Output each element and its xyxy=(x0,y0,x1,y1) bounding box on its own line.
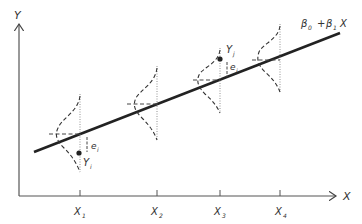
svg-text:X: X xyxy=(274,206,283,217)
x-axis-label: X xyxy=(342,190,351,203)
regression-label: β 0 + β 1 X xyxy=(300,18,348,31)
regression-diagram: Y X X 1 X 2 X 3 X 4 β 0 + β 1 X xyxy=(0,0,362,224)
y-axis-label: Y xyxy=(14,9,22,22)
svg-text:j: j xyxy=(235,67,238,75)
svg-text:3: 3 xyxy=(222,212,226,219)
error-bracket-ei: e i xyxy=(87,137,99,153)
tick-label-x4: X 4 xyxy=(274,206,287,219)
svg-text:Y: Y xyxy=(226,44,233,55)
svg-text:1: 1 xyxy=(82,212,86,219)
svg-text:+: + xyxy=(317,18,325,29)
x-ticks xyxy=(80,190,280,196)
svg-text:X: X xyxy=(213,206,222,217)
data-point-yj xyxy=(217,56,222,61)
distribution-x3 xyxy=(193,48,220,113)
svg-text:β: β xyxy=(300,18,308,29)
tick-label-x3: X 3 xyxy=(213,206,226,219)
svg-text:X: X xyxy=(339,18,348,29)
data-point-label-yj: Y j xyxy=(226,44,235,58)
svg-text:0: 0 xyxy=(308,24,312,31)
svg-text:i: i xyxy=(90,163,92,170)
data-point-yi xyxy=(76,150,81,155)
svg-text:β: β xyxy=(325,18,333,29)
svg-text:X: X xyxy=(73,206,82,217)
svg-text:4: 4 xyxy=(283,212,287,219)
distribution-x2 xyxy=(127,66,157,140)
svg-text:i: i xyxy=(97,146,99,153)
svg-text:2: 2 xyxy=(159,212,163,219)
svg-text:Y: Y xyxy=(83,157,90,168)
tick-label-x2: X 2 xyxy=(150,206,163,219)
svg-text:X: X xyxy=(150,206,159,217)
svg-text:j: j xyxy=(232,50,235,58)
svg-text:1: 1 xyxy=(333,24,337,31)
data-point-label-yi: Y i xyxy=(83,157,92,170)
tick-label-x1: X 1 xyxy=(73,206,86,219)
distribution-x1 xyxy=(49,94,80,172)
